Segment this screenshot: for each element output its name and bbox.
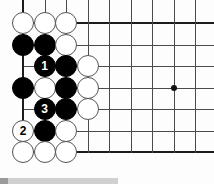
black-stone-c2r6[interactable] — [34, 120, 56, 142]
black-stone-c2r2[interactable] — [34, 34, 56, 56]
white-stone-c1r1[interactable] — [12, 12, 34, 34]
black-stone-c1r2[interactable] — [12, 34, 34, 56]
go-board-figure: 132 — [0, 0, 214, 184]
white-stone-c1r7[interactable] — [12, 141, 34, 163]
grid-line-vertical-8 — [174, 0, 175, 153]
move-number-label: 3 — [41, 103, 48, 115]
star-point-right — [171, 85, 177, 91]
white-stone-move-2[interactable]: 2 — [12, 120, 34, 142]
white-stone-c2r7[interactable] — [34, 141, 56, 163]
go-board[interactable]: 132 — [0, 0, 214, 184]
bottom-scrollbar-thumb[interactable] — [0, 178, 8, 184]
white-stone-c3r1[interactable] — [55, 12, 77, 34]
grid-line-vertical-6 — [131, 0, 132, 153]
white-stone-c3r7[interactable] — [55, 141, 77, 163]
black-stone-move-3[interactable]: 3 — [34, 98, 56, 120]
white-stone-c2r1[interactable] — [34, 12, 56, 34]
white-stone-c4r5[interactable] — [77, 98, 99, 120]
move-number-label: 2 — [20, 124, 27, 136]
black-stone-c3r5[interactable] — [55, 98, 77, 120]
black-stone-c3r4[interactable] — [55, 77, 77, 99]
grid-line-vertical-5 — [109, 0, 110, 153]
black-stone-c1r4[interactable] — [12, 77, 34, 99]
grid-line-vertical-9 — [195, 0, 196, 153]
white-stone-c4r4[interactable] — [77, 77, 99, 99]
white-stone-c2r4[interactable] — [34, 77, 56, 99]
bottom-scrollbar-strip[interactable] — [0, 178, 118, 184]
black-stone-move-1[interactable]: 1 — [34, 55, 56, 77]
move-number-label: 1 — [41, 60, 48, 72]
black-stone-c3r3[interactable] — [55, 55, 77, 77]
white-stone-c3r6[interactable] — [55, 120, 77, 142]
white-stone-c4r3[interactable] — [77, 55, 99, 77]
white-stone-c3r2[interactable] — [55, 34, 77, 56]
grid-line-vertical-7 — [152, 0, 153, 153]
